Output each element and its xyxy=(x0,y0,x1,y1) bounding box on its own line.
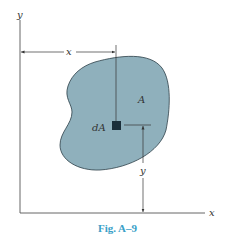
figure-caption: Fig. A–9 xyxy=(0,222,235,234)
y-axis-label: y xyxy=(16,9,23,20)
x-dimension-label: x xyxy=(66,46,72,57)
element-dA xyxy=(112,121,121,130)
area-region xyxy=(60,56,169,170)
y-dimension-label: y xyxy=(139,165,146,176)
x-axis-label: x xyxy=(209,207,215,218)
area-diagram: y x x dA A y xyxy=(0,0,235,241)
area-label: A xyxy=(137,94,145,105)
element-label: dA xyxy=(92,122,106,133)
